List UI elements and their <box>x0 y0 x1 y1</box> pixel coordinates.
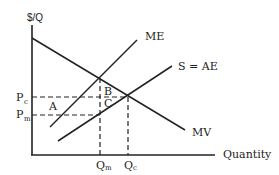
qm-label: Q m <box>96 159 112 172</box>
supply-ae-curve <box>58 66 172 141</box>
area-a-label: A <box>48 100 58 113</box>
svg-text:m: m <box>105 164 112 172</box>
svg-text:P: P <box>16 91 24 104</box>
pm-label: P m <box>16 108 31 123</box>
svg-text:Q: Q <box>96 159 105 172</box>
me-label: ME <box>145 30 164 43</box>
x-axis-label: Quantity <box>223 148 272 161</box>
area-c-label: C <box>104 97 112 110</box>
svg-text:c: c <box>133 164 137 172</box>
mv-curve <box>32 38 185 130</box>
me-curve <box>50 40 137 127</box>
pc-label: P c <box>16 91 28 106</box>
svg-text:P: P <box>16 108 24 121</box>
svg-text:m: m <box>24 115 31 123</box>
svg-text:c: c <box>24 98 28 106</box>
monopsony-diagram: $/Q Quantity ME S = AE MV P c P m Q m Q … <box>0 0 279 175</box>
svg-text:Q: Q <box>124 159 133 172</box>
supply-ae-label: S = AE <box>178 60 218 73</box>
qc-label: Q c <box>124 159 137 172</box>
y-axis-label: $/Q <box>27 12 43 23</box>
mv-label: MV <box>192 126 212 139</box>
